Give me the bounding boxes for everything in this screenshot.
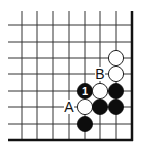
point-label-b: B <box>95 66 104 82</box>
black-stone <box>92 99 107 114</box>
black-stone <box>77 116 92 131</box>
white-stone <box>77 99 92 114</box>
black-stone <box>108 83 123 98</box>
go-board: 1 BA <box>0 0 142 151</box>
move-number: 1 <box>82 85 88 97</box>
white-stone <box>108 66 123 81</box>
white-stone <box>108 50 123 65</box>
black-stone <box>108 99 123 114</box>
point-label-a: A <box>64 99 74 115</box>
white-stone <box>92 83 107 98</box>
